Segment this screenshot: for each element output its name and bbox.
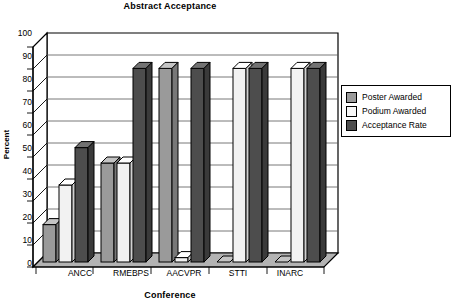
legend-label-poster: Poster Awarded [362, 92, 422, 102]
legend-label-acceptance: Acceptance Rate [362, 120, 427, 130]
chart-legend: Poster Awarded Podium Awarded Acceptance… [341, 85, 451, 137]
legend-label-podium: Podium Awarded [362, 106, 426, 116]
bar-stti-acceptance [249, 62, 268, 262]
bar-aacvpr-acceptance [191, 62, 210, 262]
legend-swatch-podium-icon [346, 106, 357, 117]
legend-item-poster-awarded: Poster Awarded [346, 90, 446, 104]
plot-area [0, 0, 454, 306]
bar-inarc-acceptance [307, 62, 326, 262]
chart-container: Abstract Acceptance Percent Conference 1… [0, 0, 454, 306]
legend-item-acceptance-rate: Acceptance Rate [346, 118, 446, 132]
bar-rmebps-acceptance [133, 62, 152, 262]
x-axis-ticks [36, 267, 324, 274]
legend-swatch-poster-icon [346, 92, 357, 103]
legend-swatch-acceptance-icon [346, 120, 357, 131]
bar-ancc-acceptance [75, 142, 94, 262]
bar-aacvpr-poster [159, 62, 178, 262]
legend-item-podium-awarded: Podium Awarded [346, 104, 446, 118]
